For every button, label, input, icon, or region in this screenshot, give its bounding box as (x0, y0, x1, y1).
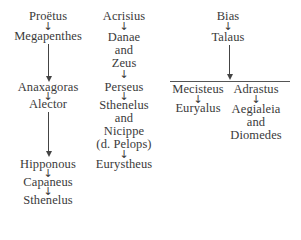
node-diomedes: Diomedes (230, 129, 281, 142)
descent-line (229, 45, 230, 75)
arrow-down-icon: ↓ (119, 69, 128, 80)
node-alector: Alector (29, 98, 67, 111)
node-megapenthes: Megapenthes (14, 30, 82, 43)
node-euryalus: Euryalus (175, 102, 220, 115)
node-eurystheus: Eurystheus (96, 158, 153, 171)
descent-line (48, 44, 49, 77)
node-sthenelus-left: Sthenelus (23, 194, 73, 207)
arrowhead-icon (227, 74, 233, 80)
node-talaus: Talaus (211, 31, 244, 44)
descent-line (48, 112, 49, 152)
